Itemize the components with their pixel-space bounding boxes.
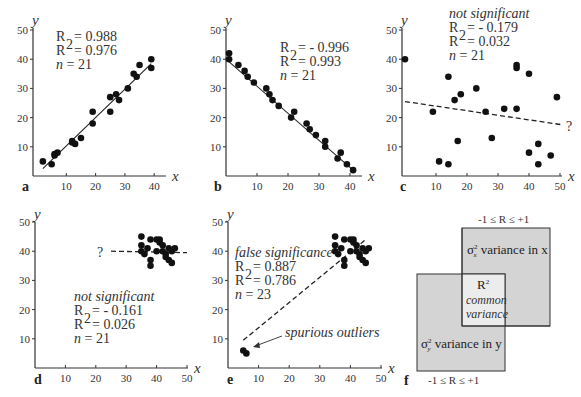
- data-point: [226, 56, 233, 63]
- data-point: [526, 149, 533, 156]
- y-axis-label: y: [32, 206, 41, 222]
- panel-label-a: a: [22, 179, 29, 194]
- variance-label: variance: [466, 307, 509, 321]
- y-tick-label: 20: [212, 304, 224, 316]
- data-point: [313, 132, 320, 139]
- data-point: [148, 65, 155, 72]
- y-tick-label: 20: [19, 304, 31, 316]
- data-point: [153, 248, 160, 255]
- data-point: [445, 73, 452, 80]
- y-axis-label: y: [225, 206, 234, 222]
- data-point: [147, 257, 154, 264]
- x-tick-label: 30: [314, 180, 326, 192]
- data-point: [341, 236, 348, 243]
- data-point: [332, 233, 339, 240]
- y-axis-label: y: [223, 12, 232, 28]
- variance-x-label: variance in x: [481, 242, 549, 257]
- data-point: [341, 257, 348, 264]
- sample-size: n = 21: [56, 57, 92, 72]
- data-point: [48, 161, 55, 168]
- x-tick-label: 30: [119, 180, 131, 192]
- svg-text:2: 2: [245, 267, 252, 282]
- data-point: [89, 108, 96, 115]
- data-point: [547, 152, 554, 159]
- data-point: [235, 62, 242, 69]
- variance-y-label: variance in y: [435, 336, 503, 351]
- data-point: [141, 251, 148, 258]
- panel-label-d: d: [34, 372, 42, 387]
- y-tick-label: 30: [212, 274, 224, 286]
- x-tick-label: 40: [149, 180, 161, 192]
- data-point: [526, 71, 533, 78]
- y-tick-label: 40: [212, 245, 224, 257]
- data-point: [263, 85, 270, 92]
- scatter-panel-d: 10203040501020304050xyd?not significantR…: [19, 206, 201, 387]
- data-point: [133, 73, 140, 80]
- data-point: [147, 236, 154, 243]
- scatter-panel-b: 102030405010203040xybR= - 0.996R2= 0.993…: [210, 12, 375, 194]
- x-tick-label: 20: [283, 180, 295, 192]
- data-point: [241, 68, 248, 75]
- svg-text:= 0.988: = 0.988: [74, 29, 117, 44]
- x-tick-label: 40: [345, 180, 357, 192]
- x-tick-label: 40: [151, 372, 163, 384]
- r-value: R: [56, 29, 66, 44]
- data-point: [535, 161, 542, 168]
- x-tick-label: 20: [90, 180, 102, 192]
- scatter-panel-e: 10203040501020304050xyefalse significanc…: [212, 206, 395, 387]
- x-tick-label: 10: [253, 372, 265, 384]
- y-tick-label: 30: [19, 274, 31, 286]
- data-point: [113, 91, 120, 98]
- panel-label-e: e: [227, 372, 233, 387]
- svg-text:= - 0.161: = - 0.161: [92, 303, 143, 318]
- data-point: [291, 108, 298, 115]
- x-tick-label: 30: [493, 180, 505, 192]
- data-point: [337, 149, 344, 156]
- data-point: [144, 245, 151, 252]
- svg-text:= 0.032: = 0.032: [467, 34, 510, 49]
- svg-text:= - 0.179: = - 0.179: [467, 20, 518, 35]
- panel-label-f: f: [404, 373, 409, 388]
- data-point: [251, 79, 258, 86]
- svg-text:= 0.026: = 0.026: [92, 317, 135, 332]
- y-tick-label: 30: [17, 82, 29, 94]
- data-point: [147, 263, 154, 270]
- r-value: R: [280, 40, 290, 55]
- r-squared-value: R: [74, 317, 84, 332]
- y-tick-label: 40: [17, 53, 29, 65]
- y-tick-label: 50: [19, 216, 31, 228]
- significance-note: not significant: [449, 6, 531, 21]
- question-mark: ?: [97, 245, 103, 260]
- data-point: [172, 245, 179, 252]
- data-point: [338, 245, 345, 252]
- data-point: [365, 245, 372, 252]
- top-range-label: -1 ≤ R ≤ +1: [478, 213, 529, 225]
- y-tick-label: 10: [17, 141, 29, 153]
- svg-text:2: 2: [66, 37, 73, 52]
- data-point: [159, 242, 166, 249]
- x-tick-label: 40: [345, 372, 357, 384]
- x-tick-label: 20: [90, 372, 102, 384]
- r-squared-value: R: [235, 273, 245, 288]
- data-point: [136, 62, 143, 69]
- data-point: [107, 94, 114, 101]
- data-point: [322, 144, 329, 151]
- data-point: [107, 108, 114, 115]
- data-point: [513, 65, 520, 72]
- sample-size: n = 23: [235, 287, 271, 302]
- data-point: [78, 135, 85, 142]
- variance-diagram: -1 ≤ R ≤ +1 -1 ≤ R ≤ +1 σ2xvariance in x…: [404, 213, 550, 388]
- data-point: [266, 91, 273, 98]
- svg-text:= - 0.996: = - 0.996: [298, 40, 349, 55]
- y-tick-label: 40: [386, 53, 398, 65]
- y-axis-label: y: [30, 12, 39, 28]
- r-value: R: [235, 259, 245, 274]
- x-axis-label: x: [171, 168, 179, 184]
- data-point: [554, 94, 561, 101]
- data-point: [513, 106, 520, 113]
- data-point: [226, 50, 233, 57]
- svg-text:= 0.887: = 0.887: [253, 259, 296, 274]
- svg-text:= 0.786: = 0.786: [253, 273, 296, 288]
- y-tick-label: 50: [17, 24, 29, 36]
- data-point: [454, 138, 461, 145]
